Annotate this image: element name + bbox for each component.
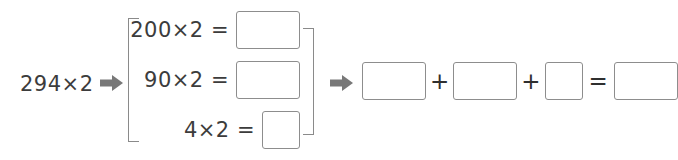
decomposition-expression: 4×2 = <box>184 120 255 141</box>
decomposition-expression: 200×2 = <box>130 20 229 41</box>
plus-operator: + <box>430 70 449 93</box>
sum-term-box-1[interactable] <box>362 62 426 100</box>
decomposition-row: 200×2 = <box>142 10 300 50</box>
sum-result-box[interactable] <box>614 62 678 100</box>
sum-term-box-3[interactable] <box>545 62 583 100</box>
answer-box-4x2[interactable] <box>262 111 300 149</box>
answer-box-90x2[interactable] <box>236 61 300 99</box>
plus-operator: + <box>521 70 540 93</box>
arrow-right-icon <box>100 73 124 93</box>
arrow-right-icon <box>330 73 354 93</box>
left-operand-expression: 294×2 <box>20 74 94 95</box>
decomposition-expression: 90×2 = <box>144 70 229 91</box>
equals-operator: = <box>589 70 608 93</box>
decomposition-row: 4×2 = <box>142 110 300 150</box>
decomposition-bracket-group: 200×2 = 90×2 = 4×2 = <box>128 18 314 142</box>
sum-term-box-2[interactable] <box>453 62 517 100</box>
answer-box-200x2[interactable] <box>236 11 300 49</box>
bracket-right-icon <box>303 28 314 135</box>
decomposition-row: 90×2 = <box>142 60 300 100</box>
sum-row: + + = <box>362 61 678 101</box>
